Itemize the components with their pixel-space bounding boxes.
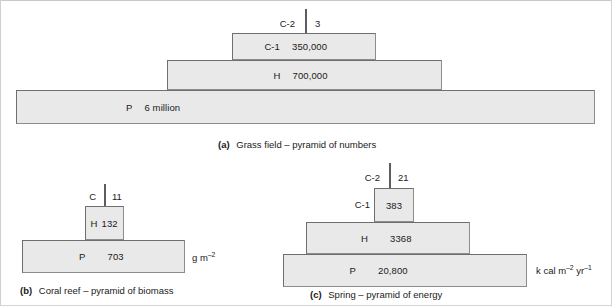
- tick-label-b-name: C: [64, 191, 96, 202]
- trophic-bar-a-c1: C-1 350,000: [232, 33, 376, 60]
- tick-label-b-value: 11: [112, 191, 144, 202]
- units-c-main: k cal m: [536, 265, 566, 276]
- trophic-bar-b-h-value: 132: [102, 218, 120, 229]
- caption-c: (c) Spring – pyramid of energy: [310, 289, 442, 300]
- trophic-bar-b-h: H 132: [85, 206, 124, 240]
- trophic-bar-c-p-name: P: [346, 265, 356, 276]
- trophic-bar-a-p-name: P: [107, 102, 133, 113]
- trophic-bar-b-h-name: H: [90, 218, 98, 229]
- units-c-sup1: –2: [566, 264, 574, 271]
- trophic-bar-a-h-value: 700,000: [293, 70, 355, 81]
- page-border-top: [0, 0, 612, 1]
- tick-line-a: [305, 9, 307, 33]
- page-border-left: [0, 0, 1, 306]
- tick-label-a-value: 3: [315, 18, 355, 29]
- caption-b: (b) Coral reef – pyramid of biomass: [20, 285, 173, 296]
- units-c: k cal m–2 yr–1: [536, 265, 592, 276]
- trophic-bar-a-c1-value: 350,000: [292, 41, 354, 52]
- caption-a-text: Grass field – pyramid of numbers: [236, 139, 376, 150]
- trophic-bar-a-c1-name: C-1: [254, 41, 280, 52]
- caption-a: (a) Grass field – pyramid of numbers: [218, 139, 376, 150]
- units-b-main: g m: [192, 252, 208, 263]
- tick-line-b: [104, 184, 106, 206]
- trophic-bar-a-p-value: 6 million: [145, 102, 215, 113]
- tick-label-c-value: 21: [398, 172, 430, 183]
- caption-c-text: Spring – pyramid of energy: [328, 289, 442, 300]
- units-b-sup1: –2: [208, 251, 216, 258]
- external-label-c-c1: C-1: [330, 199, 370, 210]
- trophic-bar-c-h-value: 3368: [390, 233, 418, 244]
- trophic-bar-a-h-name: H: [255, 70, 281, 81]
- trophic-bar-a-p: P 6 million: [16, 90, 595, 124]
- units-c-main2: yr: [574, 265, 585, 276]
- trophic-bar-c-h-name: H: [358, 233, 368, 244]
- trophic-bar-c-c1: 383: [374, 188, 414, 222]
- caption-b-text: Coral reef – pyramid of biomass: [39, 285, 174, 296]
- trophic-bar-c-p-value: 20,800: [378, 265, 418, 276]
- trophic-bar-b-p: P 703: [22, 240, 185, 273]
- trophic-bar-b-p-value: 703: [108, 251, 132, 262]
- caption-a-label: (a): [218, 139, 230, 150]
- trophic-bar-c-c1-value: 383: [375, 200, 413, 211]
- units-c-sup2: –1: [584, 264, 592, 271]
- tick-line-c: [389, 163, 391, 188]
- caption-b-label: (b): [20, 285, 32, 296]
- caption-c-label: (c): [310, 289, 322, 300]
- trophic-bar-b-p-name: P: [76, 251, 86, 262]
- trophic-bar-c-h: H 3368: [306, 222, 470, 254]
- trophic-bar-c-p: P 20,800: [283, 254, 527, 287]
- tick-label-c-name: C-2: [340, 172, 380, 183]
- tick-label-a-name: C-2: [255, 18, 295, 29]
- units-b: g m–2: [192, 252, 215, 263]
- trophic-bar-a-h: H 700,000: [167, 60, 442, 90]
